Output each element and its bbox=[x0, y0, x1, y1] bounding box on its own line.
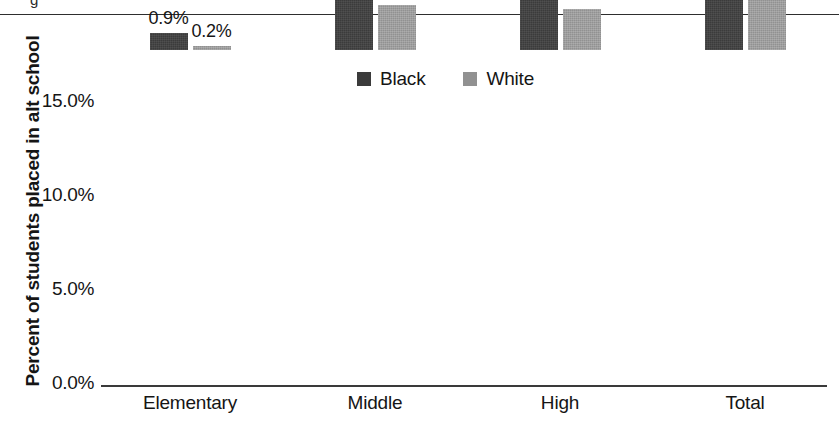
legend-item-white[interactable]: White bbox=[463, 68, 534, 90]
bar-slot: 2.4% bbox=[378, 0, 416, 50]
chart-legend: Black White bbox=[357, 68, 534, 90]
bar-value-label: 0.2% bbox=[192, 21, 232, 42]
bar-group: 0.9%0.2% bbox=[150, 0, 231, 50]
bar-group: 8.7%2.2% bbox=[520, 0, 601, 50]
x-axis-category-label: Total bbox=[665, 392, 825, 414]
bar-slot: 6.3% bbox=[335, 0, 373, 50]
bar-elementary-black[interactable] bbox=[150, 33, 188, 50]
bar-slot: 13.1% bbox=[705, 0, 743, 50]
legend-item-black[interactable]: Black bbox=[357, 68, 425, 90]
bar-slot: 8.7% bbox=[520, 0, 558, 50]
bar-value-label: 0.9% bbox=[149, 8, 189, 29]
x-axis-category-label: High bbox=[480, 392, 640, 414]
legend-label-black: Black bbox=[380, 68, 425, 90]
legend-swatch-white-icon bbox=[463, 72, 477, 86]
bar-high-white[interactable] bbox=[563, 9, 601, 50]
legend-swatch-black-icon bbox=[357, 72, 371, 86]
bar-middle-black[interactable] bbox=[335, 0, 373, 50]
bar-slot: 3.8% bbox=[748, 0, 786, 50]
bar-high-black[interactable] bbox=[520, 0, 558, 50]
bar-slot: 0.2% bbox=[193, 0, 231, 50]
bar-slot: 2.2% bbox=[563, 0, 601, 50]
legend-label-white: White bbox=[486, 68, 534, 90]
bar-total-white[interactable] bbox=[748, 0, 786, 50]
bar-slot: 0.9% bbox=[150, 0, 188, 50]
bar-total-black[interactable] bbox=[705, 0, 743, 50]
x-axis-line bbox=[101, 385, 827, 387]
y-axis-tick-label: 15.0% bbox=[0, 90, 94, 112]
bar-group: 6.3%2.4% bbox=[335, 0, 416, 50]
bar-value-label: 2.2% bbox=[562, 0, 602, 5]
plot-area: 0.0%5.0%10.0%15.0% 0.9%0.2%Elementary6.3… bbox=[0, 0, 839, 435]
x-axis-category-label: Elementary bbox=[110, 392, 270, 414]
y-axis-tick-label: 10.0% bbox=[0, 184, 94, 206]
bar-middle-white[interactable] bbox=[378, 5, 416, 50]
y-axis-tick-label: 0.0% bbox=[0, 372, 94, 394]
bar-group: 13.1%3.8% bbox=[705, 0, 786, 50]
y-axis-tick-label: 5.0% bbox=[0, 278, 94, 300]
bar-value-label: 2.4% bbox=[377, 0, 417, 1]
bar-elementary-white[interactable] bbox=[193, 46, 231, 50]
chart-page: g Percent of students placed in alt scho… bbox=[0, 0, 839, 435]
x-axis-category-label: Middle bbox=[295, 392, 455, 414]
